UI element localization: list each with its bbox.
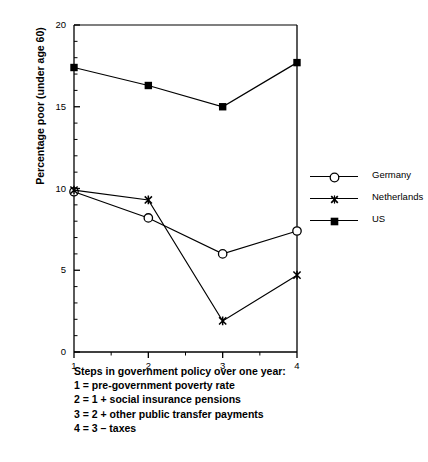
series-us xyxy=(70,59,300,111)
legend-label-netherlands: Netherlands xyxy=(372,191,423,202)
filled-square-icon xyxy=(328,214,341,227)
data-point-netherlands-4 xyxy=(293,271,300,280)
y-tick-label-15: 15 xyxy=(40,101,66,112)
y-tick-label-0: 0 xyxy=(40,346,66,357)
series-line xyxy=(74,190,297,321)
data-point-germany-3 xyxy=(218,250,226,258)
y-tick-label-20: 20 xyxy=(40,19,66,30)
chart-figure: Percentage poor (under age 60) 05101520 … xyxy=(0,0,428,462)
data-point-germany-4 xyxy=(293,227,301,235)
data-point-us-4 xyxy=(293,59,300,66)
series-netherlands xyxy=(70,186,300,326)
data-point-us-3 xyxy=(219,103,226,110)
plot-frame xyxy=(74,25,297,352)
legend-label-us: US xyxy=(372,213,385,224)
x-axis-ticks xyxy=(74,352,297,358)
series-group xyxy=(70,59,301,325)
x-tick-label-4: 4 xyxy=(289,360,305,371)
data-point-us-2 xyxy=(145,82,152,89)
open-circle-icon xyxy=(328,170,341,183)
series-germany xyxy=(70,188,301,259)
caption-line-1: 1 = pre-government poverty rate xyxy=(74,378,286,392)
series-line xyxy=(74,192,297,254)
y-tick-label-10: 10 xyxy=(40,183,66,194)
caption-block: Steps in government policy over one year… xyxy=(74,364,286,435)
data-point-netherlands-3 xyxy=(219,317,226,326)
caption-line-0: Steps in government policy over one year… xyxy=(74,364,286,378)
caption-line-2: 2 = 1 + social insurance pensions xyxy=(74,392,286,406)
caption-line-3: 3 = 2 + other public transfer payments xyxy=(74,407,286,421)
y-tick-label-5: 5 xyxy=(40,264,66,275)
data-point-us-1 xyxy=(70,64,77,71)
caption-line-4: 4 = 3 – taxes xyxy=(74,421,286,435)
legend-label-germany: Germany xyxy=(372,169,411,180)
data-point-germany-2 xyxy=(144,214,152,222)
series-line xyxy=(74,63,297,107)
cross-icon xyxy=(328,192,341,205)
